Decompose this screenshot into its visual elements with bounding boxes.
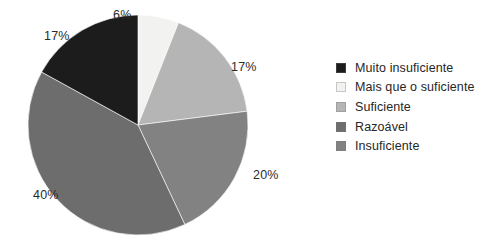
slice-label-mais-que-o-suficiente: 6% (113, 8, 131, 22)
slice-label-insuficiente: 20% (253, 168, 279, 182)
chart-legend: Muito insuficiente Mais que o suficiente… (336, 58, 501, 156)
legend-item-muito-insuficiente[interactable]: Muito insuficiente (336, 58, 501, 78)
slice-label-razoavel: 40% (33, 188, 59, 202)
legend-item-mais-que-o-suficiente[interactable]: Mais que o suficiente (336, 78, 501, 98)
pie-slices (28, 15, 248, 235)
legend-item-razoavel[interactable]: Razoável (336, 117, 501, 137)
legend-swatch-icon (336, 141, 346, 151)
legend-item-suficiente[interactable]: Suficiente (336, 97, 501, 117)
slice-label-muito-insuficiente: 17% (44, 29, 70, 43)
legend-item-label: Mais que o suficiente (355, 80, 475, 94)
legend-swatch-icon (336, 63, 346, 73)
legend-swatch-icon (336, 82, 346, 92)
legend-swatch-icon (336, 102, 346, 112)
legend-item-label: Insuficiente (355, 139, 419, 153)
legend-swatch-icon (336, 122, 346, 132)
legend-item-label: Suficiente (355, 100, 411, 114)
slice-label-suficiente: 17% (231, 60, 257, 74)
pie-chart-figure: 6% 17% 17% 20% 40% Muito insuficiente Ma… (0, 0, 504, 240)
legend-item-label: Razoável (355, 120, 408, 134)
pie-plot-area: 6% 17% 17% 20% 40% (0, 0, 320, 240)
legend-item-insuficiente[interactable]: Insuficiente (336, 136, 501, 156)
legend-item-label: Muito insuficiente (355, 61, 453, 75)
